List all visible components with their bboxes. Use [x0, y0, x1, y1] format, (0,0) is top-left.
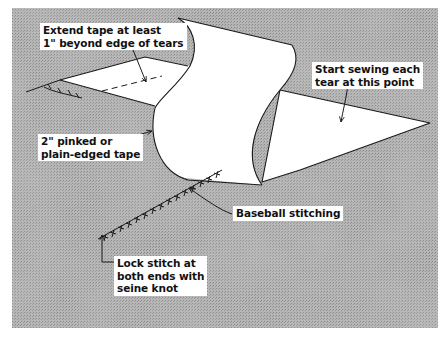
diagram-canvas: [0, 0, 446, 338]
label-line: tear at this point: [315, 76, 420, 89]
label-line: Baseball stitching: [236, 207, 340, 220]
extend-tape-label: Extend tape at least 1" beyond edge of t…: [40, 23, 187, 50]
label-line: Start sewing each: [315, 63, 420, 76]
label-line: 2" pinked or: [41, 135, 140, 148]
label-line: Lock stitch at: [117, 257, 204, 270]
baseball-stitching-label: Baseball stitching: [233, 206, 343, 221]
label-line: Extend tape at least: [43, 24, 184, 37]
start-sewing-label: Start sewing each tear at this point: [312, 62, 423, 89]
tape-type-label: 2" pinked or plain-edged tape: [38, 134, 143, 161]
label-line: seine knot: [117, 282, 204, 295]
tape-repair-diagram: Extend tape at least 1" beyond edge of t…: [0, 0, 446, 338]
label-line: both ends with: [117, 270, 204, 283]
label-line: 1" beyond edge of tears: [43, 37, 184, 50]
label-line: plain-edged tape: [41, 148, 140, 161]
lock-stitch-label: Lock stitch at both ends with seine knot: [114, 256, 207, 296]
